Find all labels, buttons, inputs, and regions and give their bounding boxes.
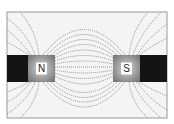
north-pole: N xyxy=(28,55,55,82)
right-magnet-bar xyxy=(140,55,167,82)
south-pole: S xyxy=(113,55,140,82)
magnetic-field-diagram: NS xyxy=(0,0,174,124)
left-magnet-bar xyxy=(7,55,28,82)
north-pole-label: N xyxy=(38,63,45,74)
south-pole-label: S xyxy=(123,63,130,74)
